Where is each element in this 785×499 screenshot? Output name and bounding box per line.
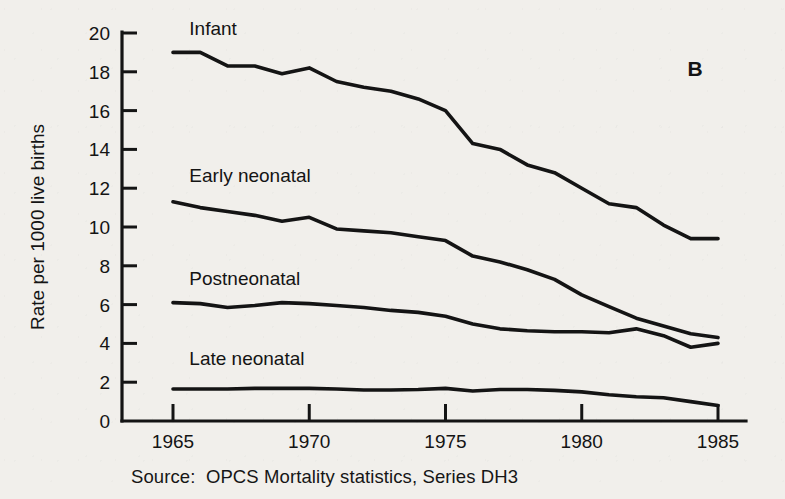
y-tick-label: 0 (99, 411, 110, 432)
y-tick-label: 14 (89, 139, 111, 160)
series-line-postneonatal (173, 303, 718, 348)
y-tick-label: 8 (99, 256, 110, 277)
x-tick-label: 1975 (424, 431, 466, 452)
y-tick-label: 6 (99, 295, 110, 316)
y-tick-label: 18 (89, 62, 110, 83)
y-tick-label: 4 (99, 333, 110, 354)
series-label-infant: Infant (189, 18, 237, 39)
series-label-early-neonatal: Early neonatal (189, 165, 310, 186)
y-tick-label: 2 (99, 372, 110, 393)
x-tick-label: 1985 (697, 431, 739, 452)
y-axis-title: Rate per 1000 live births (27, 124, 48, 330)
y-tick-label: 20 (89, 23, 110, 44)
x-tick-label: 1965 (152, 431, 194, 452)
x-axis-ticks (173, 404, 718, 421)
x-tick-label: 1970 (288, 431, 330, 452)
y-tick-label: 16 (89, 101, 110, 122)
x-tick-label: 1980 (561, 431, 603, 452)
panel-label-b: B (687, 57, 702, 80)
figure-panel-b: 02468101214161820 19651970197519801985 I… (0, 0, 785, 499)
y-axis-tick-labels: 02468101214161820 (89, 23, 111, 432)
x-axis-tick-labels: 19651970197519801985 (152, 431, 739, 452)
y-tick-label: 12 (89, 178, 110, 199)
y-tick-label: 10 (89, 217, 110, 238)
series-label-late-neonatal: Late neonatal (189, 348, 304, 369)
series-line-infant (173, 52, 718, 238)
series-label-postneonatal: Postneonatal (189, 268, 300, 289)
y-axis-ticks (122, 33, 137, 382)
source-note: Source: OPCS Mortality statistics, Serie… (131, 466, 518, 488)
series-line-late-neonatal (173, 388, 718, 405)
chart-canvas: 02468101214161820 19651970197519801985 I… (0, 0, 785, 499)
